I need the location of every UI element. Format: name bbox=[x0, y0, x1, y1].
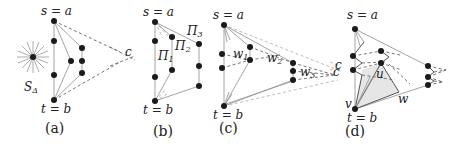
label-s-equals-a: s = a bbox=[347, 8, 378, 22]
star-s-delta-icon bbox=[17, 41, 49, 73]
panel-b: s = a t = b Π1 Π2 Π3 (b) bbox=[143, 5, 203, 139]
label-c-a: c bbox=[125, 45, 132, 59]
label-pi-3: Π3 bbox=[186, 24, 203, 39]
label-pi-2: Π2 bbox=[174, 39, 191, 54]
label-w: w bbox=[398, 92, 409, 106]
panel-c: s = a t = b w1 w2 w3 c (c) bbox=[213, 8, 340, 136]
label-u: u bbox=[376, 67, 384, 81]
label-t-equals-b: t = b bbox=[41, 102, 71, 116]
label-s-delta: SΔ bbox=[24, 80, 38, 95]
panel-a: s = a t = b SΔ (a) bbox=[17, 4, 120, 136]
label-pi-1: Π1 bbox=[157, 49, 174, 64]
label-c-d: c bbox=[335, 58, 342, 72]
label-s-equals-a: s = a bbox=[143, 5, 174, 19]
caption-d: (d) bbox=[345, 123, 365, 139]
caption-c: (c) bbox=[219, 120, 238, 136]
label-s-equals-a: s = a bbox=[213, 8, 244, 22]
figure: s = a t = b SΔ (a) c s = a t = b Π1 Π2 bbox=[0, 0, 468, 147]
label-s-equals-a: s = a bbox=[41, 4, 72, 18]
caption-b: (b) bbox=[153, 123, 173, 139]
panel-d: c bbox=[330, 8, 446, 139]
label-v: v bbox=[345, 97, 352, 111]
label-w-1: w1 bbox=[233, 47, 248, 62]
label-w-3: w3 bbox=[300, 65, 315, 80]
label-w-2: w2 bbox=[267, 51, 282, 66]
caption-a: (a) bbox=[45, 120, 64, 136]
label-t-equals-b: t = b bbox=[143, 103, 173, 117]
apex-c-a: c bbox=[110, 45, 135, 66]
